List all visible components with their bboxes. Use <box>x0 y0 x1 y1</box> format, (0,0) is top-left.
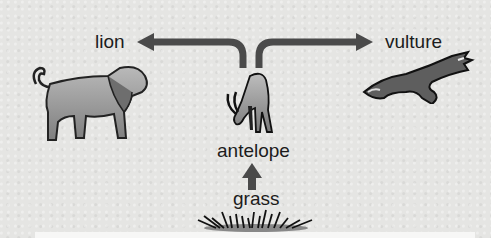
food-chain-diagram: lion vulture antelope grass <box>0 0 491 238</box>
arrowhead-to-antelope <box>242 163 262 178</box>
grass-icon <box>196 208 316 232</box>
lion-icon <box>28 62 153 147</box>
antelope-icon <box>222 66 278 136</box>
vulture-label: vulture <box>385 32 442 51</box>
grass-label: grass <box>233 189 279 208</box>
arrowhead-to-lion <box>137 33 154 51</box>
bottom-border <box>35 232 475 238</box>
lion-label: lion <box>95 32 125 51</box>
vulture-icon <box>360 48 480 104</box>
antelope-label: antelope <box>217 141 290 160</box>
